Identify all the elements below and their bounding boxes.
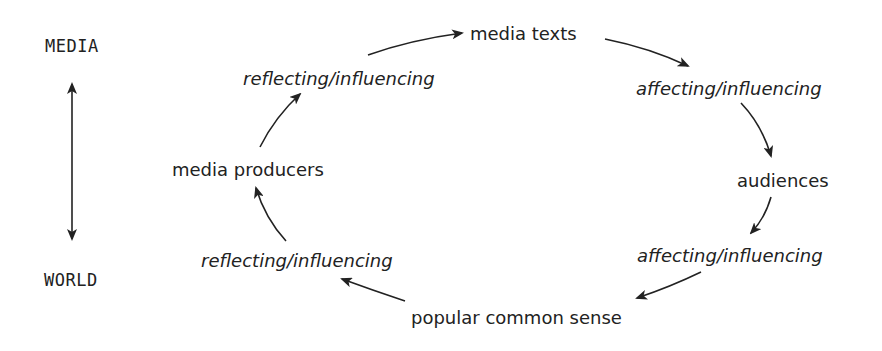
arrow-icon-to-reflecting-bottom <box>342 279 405 301</box>
arrow-icon-to-media-texts <box>368 33 462 55</box>
arrow-icon-to-affecting-top <box>605 39 688 66</box>
media-world-cycle-diagram: MEDIA WORLD media texts audiences popula… <box>0 0 882 351</box>
process-label-reflecting-bottom: reflecting/influencing <box>201 250 393 271</box>
arrow-icon-to-audiences <box>741 103 771 156</box>
arrow-icon-to-popular-common-sense <box>637 272 701 298</box>
axis-label-world: WORLD <box>44 270 98 290</box>
process-label-reflecting-top: reflecting/influencing <box>243 68 435 89</box>
process-label-affecting-bottom: affecting/influencing <box>637 245 823 266</box>
axis-label-media: MEDIA <box>45 36 99 56</box>
arrow-icon-to-media-producers <box>256 188 286 241</box>
arrow-icon-to-reflecting-top <box>260 94 300 147</box>
node-media-texts: media texts <box>470 23 577 44</box>
node-media-producers: media producers <box>172 159 324 180</box>
arrow-icon-to-affecting-bottom <box>751 197 771 233</box>
node-audiences: audiences <box>737 170 829 191</box>
node-popular-common-sense: popular common sense <box>411 307 622 328</box>
process-label-affecting-top: affecting/influencing <box>636 78 822 99</box>
